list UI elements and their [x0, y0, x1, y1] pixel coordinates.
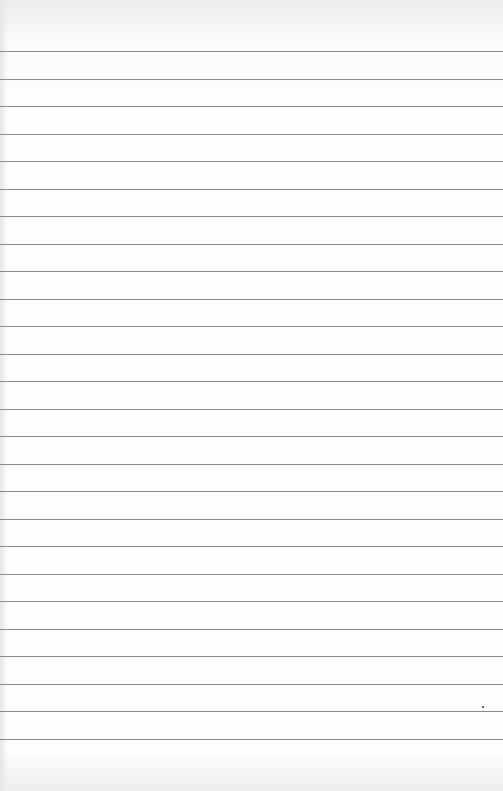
ruled-line	[0, 216, 503, 217]
ruled-line	[0, 436, 503, 437]
ruled-line	[0, 326, 503, 327]
ruled-line	[0, 409, 503, 410]
ruled-line	[0, 299, 503, 300]
ruled-line	[0, 601, 503, 602]
ruled-line	[0, 546, 503, 547]
ruled-line	[0, 271, 503, 272]
ruled-line	[0, 629, 503, 630]
paper-edge-shadow	[0, 0, 8, 791]
ruled-line	[0, 134, 503, 135]
ruled-line	[0, 656, 503, 657]
ruled-line	[0, 354, 503, 355]
ruled-line	[0, 574, 503, 575]
ruled-line	[0, 161, 503, 162]
ruled-line	[0, 244, 503, 245]
ruled-line	[0, 51, 503, 52]
ink-dot	[482, 706, 484, 708]
ruled-line	[0, 711, 503, 712]
ruled-line	[0, 684, 503, 685]
ruled-line	[0, 189, 503, 190]
ruled-line	[0, 79, 503, 80]
ruled-line	[0, 381, 503, 382]
lined-paper	[0, 0, 503, 791]
ruled-line	[0, 519, 503, 520]
ruled-line	[0, 464, 503, 465]
ruled-line	[0, 739, 503, 740]
ruled-line	[0, 491, 503, 492]
ruled-line	[0, 106, 503, 107]
